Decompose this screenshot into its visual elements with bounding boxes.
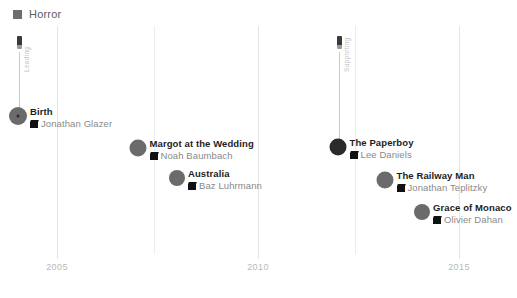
film-title: Margot at the Wedding <box>150 138 254 149</box>
director-row: Jonathan Glazer <box>30 118 112 129</box>
film-strip-icon <box>337 36 342 49</box>
film-title: Birth <box>30 106 112 117</box>
film-strip-icon <box>17 36 22 49</box>
director-name: Olivier Dahan <box>444 214 503 225</box>
x-axis-tick-label: 2010 <box>247 262 269 272</box>
clapperboard-icon <box>150 152 158 160</box>
data-point-bubble[interactable] <box>169 170 185 186</box>
data-point-center-dot <box>337 146 340 149</box>
data-point-center-dot <box>17 115 20 118</box>
data-point-label: AustraliaBaz Luhrmann <box>188 168 262 191</box>
connector-stem <box>339 52 340 147</box>
data-point-label: The Railway ManJonathan Teplitzky <box>397 170 488 193</box>
gridline <box>258 26 259 259</box>
film-title: The Paperboy <box>350 137 414 148</box>
director-row: Olivier Dahan <box>433 214 512 225</box>
data-point-bubble[interactable] <box>377 172 394 189</box>
legend[interactable]: Horror <box>13 8 61 20</box>
clapperboard-icon <box>188 182 196 190</box>
director-name: Baz Luhrmann <box>199 180 262 191</box>
director-name: Noah Baumbach <box>161 150 233 161</box>
legend-label: Horror <box>29 8 61 20</box>
director-row: Noah Baumbach <box>150 150 254 161</box>
director-name: Lee Daniels <box>361 149 412 160</box>
director-name: Jonathan Glazer <box>41 118 112 129</box>
film-title: The Railway Man <box>397 170 488 181</box>
director-row: Baz Luhrmann <box>188 180 262 191</box>
data-point-bubble[interactable] <box>130 140 147 157</box>
director-row: Jonathan Teplitzky <box>397 182 488 193</box>
film-title: Australia <box>188 168 262 179</box>
connector-label: Supporting <box>343 38 350 72</box>
director-row: Lee Daniels <box>350 149 414 160</box>
director-name: Jonathan Teplitzky <box>408 182 488 193</box>
clapperboard-icon <box>30 120 38 128</box>
connector-label: Leading <box>23 47 30 72</box>
clapperboard-icon <box>397 184 405 192</box>
data-point-label: Grace of MonacoOlivier Dahan <box>433 202 512 225</box>
x-axis-tick-label: 2015 <box>448 262 470 272</box>
clapperboard-icon <box>350 151 358 159</box>
clapperboard-icon <box>433 216 441 224</box>
data-point-bubble[interactable] <box>414 204 430 220</box>
data-point-label: BirthJonathan Glazer <box>30 106 112 129</box>
data-point-label: The PaperboyLee Daniels <box>350 137 414 160</box>
data-point-label: Margot at the WeddingNoah Baumbach <box>150 138 254 161</box>
x-axis-tick-label: 2005 <box>46 262 68 272</box>
gridline <box>57 26 58 259</box>
square-swatch-icon <box>13 10 22 19</box>
film-title: Grace of Monaco <box>433 202 512 213</box>
chart-canvas: Horror LeadingSupporting BirthJonathan G… <box>0 0 517 298</box>
